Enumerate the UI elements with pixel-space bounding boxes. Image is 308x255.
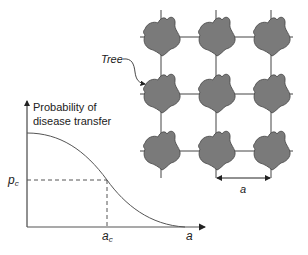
tree-icon bbox=[254, 74, 291, 113]
x-axis-label: a bbox=[186, 229, 193, 243]
tree-icon bbox=[144, 17, 181, 56]
y-axis-label-line1: Probability of bbox=[33, 101, 98, 113]
tree-icon bbox=[144, 74, 181, 113]
tree-icon bbox=[199, 17, 236, 56]
tree-icon bbox=[144, 131, 181, 170]
tree-icon bbox=[199, 131, 236, 170]
tree-icon bbox=[199, 74, 236, 113]
y-axis-label-line2: disease transfer bbox=[33, 115, 112, 127]
tree-label: Tree bbox=[101, 53, 123, 65]
tree-grid bbox=[144, 17, 291, 170]
critical-dist-label: ac bbox=[102, 229, 113, 244]
spacing-label: a bbox=[240, 183, 246, 195]
diagram: Tree a Probability of disease transfer p… bbox=[0, 0, 308, 255]
tree-pointer-arrow bbox=[123, 59, 145, 84]
tree-icon bbox=[254, 17, 291, 56]
critical-prob-label: pc bbox=[7, 173, 19, 188]
tree-icon bbox=[254, 131, 291, 170]
